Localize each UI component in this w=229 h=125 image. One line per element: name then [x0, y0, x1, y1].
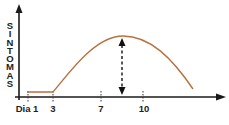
- symptom-curve: [27, 36, 193, 92]
- x-tick-label-3: 3: [50, 103, 55, 114]
- x-tick-label-day1: Dia 1: [16, 103, 39, 114]
- x-tick-label-10: 10: [139, 103, 150, 114]
- y-axis-label: S I N T O M A S: [4, 22, 16, 88]
- peak-arrow-down-icon: [119, 87, 126, 95]
- x-tick-label-7: 7: [98, 103, 103, 114]
- y-axis-arrow-icon: [16, 4, 23, 13]
- peak-arrow-up-icon: [119, 38, 126, 46]
- x-axis-arrow-icon: [216, 94, 226, 101]
- y-label-letter: S: [7, 80, 13, 88]
